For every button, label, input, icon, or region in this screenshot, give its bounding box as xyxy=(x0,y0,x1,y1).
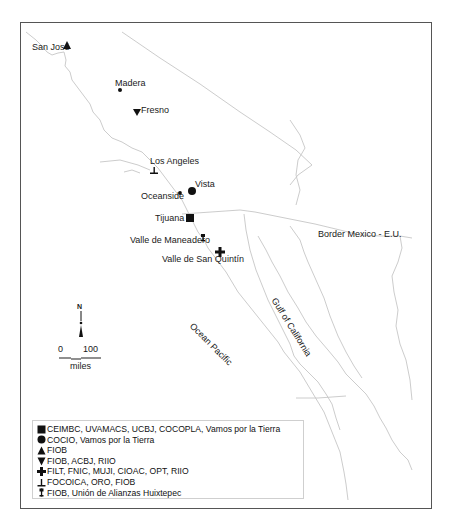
north-arrow-icon xyxy=(75,311,87,347)
city-label-valle-de-maneadero: Valle de Maneadero xyxy=(130,236,210,245)
triangle-down-icon xyxy=(36,456,46,466)
north-label: N xyxy=(77,303,82,310)
legend-item: FOCOICA, ORO, FIOB xyxy=(36,477,303,488)
legend-item: FIOB xyxy=(36,445,303,456)
city-label-madera: Madera xyxy=(115,79,146,88)
scale-start-label: 0 xyxy=(58,345,63,354)
legend-label: FILT, FNIC, MUJI, CIOAC, OPT, RIIO xyxy=(47,467,189,476)
small-dot-icon xyxy=(118,88,122,92)
scale-bar: 0 100 miles xyxy=(58,345,162,375)
square-icon xyxy=(186,214,194,222)
legend-item: CEIMBC, UVAMACS, UCBJ, COCOPLA, Vamos po… xyxy=(36,424,303,435)
circle-icon xyxy=(36,435,46,445)
city-label-vista: Vista xyxy=(195,180,215,189)
cross-icon xyxy=(36,467,46,477)
north-arrow: N xyxy=(75,303,87,339)
legend-item: FILT, FNIC, MUJI, CIOAC, OPT, RIIO xyxy=(36,466,303,477)
city-label-san-jose: San José xyxy=(32,43,70,52)
city-label-fresno: Fresno xyxy=(141,106,169,115)
legend-label: FOCOICA, ORO, FIOB xyxy=(47,478,135,487)
city-label-los-angeles: Los Angeles xyxy=(150,157,199,166)
scale-end-label: 100 xyxy=(83,345,98,354)
legend-item: FIOB, ACBJ, RIIO xyxy=(36,456,303,467)
city-label-valle-de-san-quintin: Valle de San Quintín xyxy=(162,255,244,264)
legend-item: COCIO, Vamos por la Tierra xyxy=(36,435,303,446)
legend: CEIMBC, UVAMACS, UCBJ, COCOPLA, Vamos po… xyxy=(32,420,304,499)
legend-label: FIOB, Unión de Alianzas Huixtepec xyxy=(47,489,181,498)
inverted-t-icon xyxy=(36,477,46,487)
inverted-t-icon xyxy=(150,167,158,174)
legend-label: FIOB, ACBJ, RIIO xyxy=(47,457,116,466)
legend-item: FIOB, Unión de Alianzas Huixtepec xyxy=(36,488,303,499)
legend-label: CEIMBC, UVAMACS, UCBJ, COCOPLA, Vamos po… xyxy=(47,425,280,434)
border-label: Border Mexico - E.U. xyxy=(318,230,402,239)
city-label-tijuana: Tijuana xyxy=(155,214,184,223)
pin-icon xyxy=(36,488,46,498)
triangle-down-icon xyxy=(133,109,141,116)
scale-unit-label: miles xyxy=(70,362,91,371)
legend-label: COCIO, Vamos por la Tierra xyxy=(47,436,154,445)
triangle-up-icon xyxy=(36,445,46,455)
legend-label: FIOB xyxy=(47,446,67,455)
city-label-oceanside: Oceanside xyxy=(141,192,184,201)
square-icon xyxy=(36,424,46,434)
